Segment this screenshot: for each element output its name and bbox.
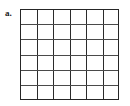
square-grid [20, 9, 119, 100]
grid-svg [20, 9, 119, 100]
grid-background [20, 9, 119, 100]
figure-label: a. [5, 8, 12, 18]
figure-container: a. [0, 0, 130, 106]
